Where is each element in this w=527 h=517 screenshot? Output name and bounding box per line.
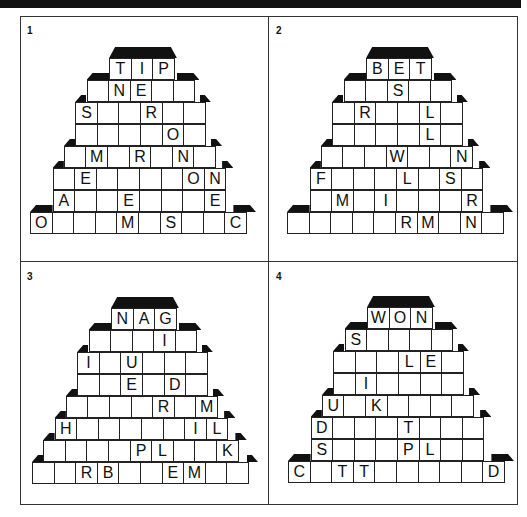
empty-cell[interactable] — [73, 212, 96, 234]
empty-cell[interactable] — [181, 212, 204, 234]
empty-cell[interactable] — [89, 330, 112, 352]
letter-cell[interactable]: S — [345, 329, 368, 351]
letter-cell[interactable]: R — [129, 146, 152, 168]
empty-cell[interactable] — [118, 102, 141, 124]
empty-cell[interactable] — [441, 373, 464, 395]
letter-cell[interactable]: E — [74, 168, 97, 190]
letter-cell[interactable]: S — [439, 168, 462, 190]
empty-cell[interactable] — [75, 124, 98, 146]
empty-cell[interactable] — [418, 190, 441, 212]
empty-cell[interactable] — [409, 329, 432, 351]
empty-cell[interactable] — [353, 168, 376, 190]
empty-cell[interactable] — [173, 80, 196, 102]
letter-cell[interactable]: I — [374, 190, 397, 212]
empty-cell[interactable] — [396, 190, 419, 212]
empty-cell[interactable] — [162, 102, 185, 124]
empty-cell[interactable] — [163, 418, 186, 440]
empty-cell[interactable] — [108, 440, 131, 462]
empty-cell[interactable] — [461, 461, 484, 483]
empty-cell[interactable] — [310, 190, 333, 212]
empty-cell[interactable] — [396, 461, 419, 483]
empty-cell[interactable] — [364, 146, 387, 168]
empty-cell[interactable] — [352, 212, 375, 234]
letter-cell[interactable]: O — [162, 124, 185, 146]
empty-cell[interactable] — [332, 124, 355, 146]
letter-cell[interactable]: E — [162, 462, 185, 484]
empty-cell[interactable] — [461, 168, 484, 190]
empty-cell[interactable] — [141, 418, 164, 440]
letter-cell[interactable]: E — [120, 374, 143, 396]
empty-cell[interactable] — [43, 440, 66, 462]
empty-cell[interactable] — [138, 212, 161, 234]
empty-cell[interactable] — [193, 146, 216, 168]
letter-cell[interactable]: R — [354, 102, 377, 124]
empty-cell[interactable] — [117, 168, 140, 190]
empty-cell[interactable] — [376, 373, 399, 395]
empty-cell[interactable] — [164, 352, 187, 374]
letter-cell[interactable]: O — [30, 212, 53, 234]
letter-cell[interactable]: N — [410, 307, 433, 329]
empty-cell[interactable] — [139, 168, 162, 190]
empty-cell[interactable] — [132, 330, 155, 352]
letter-cell[interactable]: F — [310, 168, 333, 190]
empty-cell[interactable] — [439, 461, 462, 483]
letter-cell[interactable]: O — [182, 168, 205, 190]
empty-cell[interactable] — [355, 351, 378, 373]
empty-cell[interactable] — [182, 190, 205, 212]
empty-cell[interactable] — [74, 190, 97, 212]
letter-cell[interactable]: N — [111, 308, 134, 330]
empty-cell[interactable] — [131, 396, 154, 418]
empty-cell[interactable] — [107, 146, 130, 168]
letter-cell[interactable]: S — [75, 102, 98, 124]
empty-cell[interactable] — [321, 146, 344, 168]
letter-cell[interactable]: E — [130, 80, 153, 102]
empty-cell[interactable] — [97, 124, 120, 146]
empty-cell[interactable] — [32, 462, 55, 484]
letter-cell[interactable]: B — [366, 58, 389, 80]
empty-cell[interactable] — [119, 418, 142, 440]
empty-cell[interactable] — [140, 124, 163, 146]
letter-cell[interactable]: I — [131, 58, 154, 80]
empty-cell[interactable] — [344, 80, 367, 102]
empty-cell[interactable] — [440, 439, 463, 461]
letter-cell[interactable]: N — [204, 168, 227, 190]
letter-cell[interactable]: C — [288, 461, 311, 483]
empty-cell[interactable] — [99, 352, 122, 374]
letter-cell[interactable]: M — [116, 212, 139, 234]
letter-cell[interactable]: I — [184, 418, 207, 440]
letter-cell[interactable]: S — [160, 212, 183, 234]
empty-cell[interactable] — [420, 373, 443, 395]
letter-cell[interactable]: N — [108, 80, 131, 102]
letter-cell[interactable]: R — [140, 102, 163, 124]
empty-cell[interactable] — [397, 102, 420, 124]
empty-cell[interactable] — [331, 168, 354, 190]
empty-cell[interactable] — [418, 461, 441, 483]
empty-cell[interactable] — [374, 461, 397, 483]
empty-cell[interactable] — [375, 439, 398, 461]
empty-cell[interactable] — [183, 102, 206, 124]
empty-cell[interactable] — [398, 373, 421, 395]
letter-cell[interactable]: S — [387, 80, 410, 102]
letter-cell[interactable]: R — [461, 190, 484, 212]
empty-cell[interactable] — [53, 168, 76, 190]
empty-cell[interactable] — [333, 373, 356, 395]
empty-cell[interactable] — [439, 190, 462, 212]
empty-cell[interactable] — [65, 440, 88, 462]
empty-cell[interactable] — [109, 396, 132, 418]
letter-cell[interactable]: R — [75, 462, 98, 484]
empty-cell[interactable] — [332, 417, 355, 439]
empty-cell[interactable] — [408, 80, 431, 102]
letter-cell[interactable]: E — [204, 190, 227, 212]
letter-cell[interactable]: H — [55, 418, 78, 440]
empty-cell[interactable] — [332, 439, 355, 461]
empty-cell[interactable] — [332, 102, 355, 124]
empty-cell[interactable] — [175, 330, 198, 352]
empty-cell[interactable] — [226, 462, 249, 484]
empty-cell[interactable] — [430, 80, 453, 102]
letter-cell[interactable]: P — [397, 439, 420, 461]
letter-cell[interactable]: T — [397, 417, 420, 439]
empty-cell[interactable] — [354, 124, 377, 146]
empty-cell[interactable] — [185, 374, 208, 396]
empty-cell[interactable] — [54, 462, 77, 484]
empty-cell[interactable] — [66, 396, 89, 418]
